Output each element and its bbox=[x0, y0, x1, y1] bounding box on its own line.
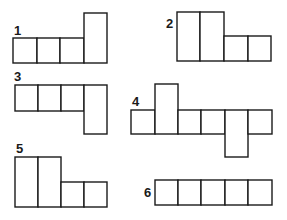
figure-1: 1 bbox=[13, 13, 107, 63]
figure-diagram: 1 2 3 4 5 6 bbox=[0, 0, 287, 220]
figure-4-cell bbox=[131, 110, 155, 134]
figure-6: 6 bbox=[144, 180, 272, 205]
figure-2-label: 2 bbox=[166, 16, 173, 31]
figure-4-cell bbox=[178, 110, 201, 134]
figure-2: 2 bbox=[166, 12, 271, 61]
figure-6-label: 6 bbox=[144, 185, 151, 200]
figure-3-cell bbox=[15, 85, 38, 111]
figure-5-tall-cell bbox=[15, 157, 38, 207]
figure-5-label: 5 bbox=[16, 141, 23, 156]
figure-1-cell bbox=[37, 38, 60, 63]
figure-2-tall-cell bbox=[200, 12, 224, 61]
figure-4-tall-up-cell bbox=[155, 84, 178, 134]
figure-4-label: 4 bbox=[132, 94, 140, 109]
figure-6-cell bbox=[248, 180, 272, 205]
figure-4: 4 bbox=[131, 84, 272, 157]
figure-1-tall-cell bbox=[84, 13, 107, 63]
figure-5-tall-cell bbox=[38, 157, 61, 207]
figure-6-cell bbox=[155, 180, 178, 205]
figure-4-tall-down-cell bbox=[225, 110, 248, 157]
figure-5: 5 bbox=[15, 141, 107, 207]
figure-3-tall-cell bbox=[84, 85, 107, 134]
figure-2-tall-cell bbox=[177, 12, 200, 61]
figure-2-cell bbox=[224, 36, 248, 61]
figure-3-cell bbox=[61, 85, 84, 111]
figure-5-cell bbox=[84, 182, 107, 207]
figure-3-label: 3 bbox=[14, 69, 21, 84]
figure-4-cell bbox=[201, 110, 225, 134]
figure-1-cell bbox=[60, 38, 84, 63]
figure-1-label: 1 bbox=[14, 23, 21, 38]
figure-6-cell bbox=[178, 180, 201, 205]
figure-1-cell bbox=[13, 38, 37, 63]
figure-3: 3 bbox=[14, 69, 107, 134]
figure-5-cell bbox=[61, 182, 84, 207]
figure-6-cell bbox=[225, 180, 248, 205]
figure-4-cell bbox=[248, 110, 272, 134]
figure-6-cell bbox=[201, 180, 225, 205]
figure-3-cell bbox=[38, 85, 61, 111]
figure-2-cell bbox=[248, 36, 271, 61]
